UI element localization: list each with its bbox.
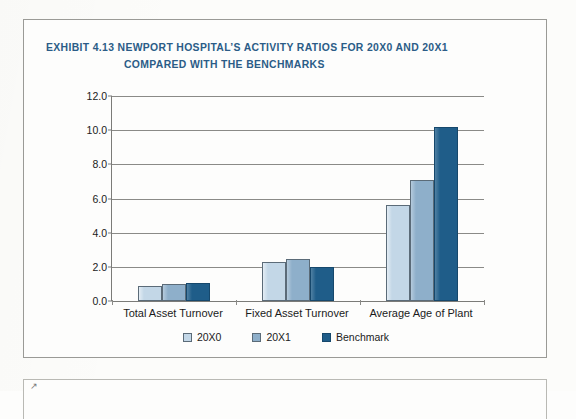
y-axis-tick-mark	[108, 232, 112, 233]
bar[interactable]	[138, 286, 162, 301]
bar-group	[138, 96, 210, 301]
y-axis-tick-label: 0.0	[92, 295, 107, 307]
x-axis-separator	[484, 300, 485, 305]
gridline	[112, 301, 484, 302]
y-axis-tick-label: 12.0	[87, 90, 107, 102]
y-axis-tick-label: 4.0	[92, 227, 107, 239]
bar[interactable]	[186, 283, 210, 301]
y-axis-tick-label: 2.0	[92, 261, 107, 273]
x-axis-label: Average Age of Plant	[369, 307, 472, 319]
next-exhibit-marker: ↗	[30, 381, 46, 391]
legend-swatch-icon	[322, 333, 331, 342]
exhibit-container: EXHIBIT 4.13 NEWPORT HOSPITAL’S ACTIVITY…	[23, 19, 547, 358]
legend-item[interactable]: Benchmark	[322, 332, 389, 343]
y-axis-tick-mark	[108, 266, 112, 267]
y-axis-tick-label: 8.0	[92, 158, 107, 170]
legend-item[interactable]: 20X1	[252, 332, 291, 343]
bar[interactable]	[386, 205, 410, 301]
bar-group	[386, 96, 458, 301]
y-axis-tick-label: 10.0	[87, 124, 107, 136]
legend-item[interactable]: 20X0	[183, 332, 222, 343]
bar[interactable]	[162, 284, 186, 301]
legend-swatch-icon	[183, 333, 192, 342]
bar[interactable]	[310, 267, 334, 301]
y-axis-tick-mark	[108, 96, 112, 97]
plot-area: 0.02.04.06.08.010.012.0	[111, 96, 483, 301]
legend-label: Benchmark	[336, 332, 389, 343]
y-axis-tick-mark	[108, 198, 112, 199]
x-axis-separator	[112, 300, 113, 305]
chart-area: 0.02.04.06.08.010.012.0 Total Asset Turn…	[24, 20, 548, 359]
bar[interactable]	[286, 259, 310, 301]
next-exhibit-box	[23, 379, 547, 419]
y-axis-tick-mark	[108, 164, 112, 165]
x-axis-separator	[236, 300, 237, 305]
legend-label: 20X0	[197, 332, 222, 343]
legend-swatch-icon	[252, 333, 261, 342]
x-axis-separator	[360, 300, 361, 305]
bar[interactable]	[434, 127, 458, 301]
bar[interactable]	[410, 180, 434, 301]
x-axis-label: Total Asset Turnover	[123, 307, 223, 319]
chart-legend: 20X020X1Benchmark	[24, 332, 548, 343]
bar[interactable]	[262, 262, 286, 301]
y-axis-tick-mark	[108, 130, 112, 131]
legend-label: 20X1	[266, 332, 291, 343]
bar-group	[262, 96, 334, 301]
y-axis-tick-label: 6.0	[92, 193, 107, 205]
x-axis-label: Fixed Asset Turnover	[245, 307, 348, 319]
